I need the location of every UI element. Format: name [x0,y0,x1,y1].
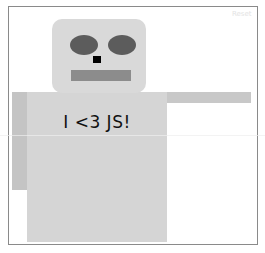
shirt-text: I <3 JS! [27,112,167,132]
robot-right-arm [167,92,251,103]
robot-right-eye [108,35,136,55]
robot-nose [93,56,101,63]
robot-mouth [71,70,131,81]
robot-left-eye [70,35,98,55]
divider-line [0,135,265,136]
robot-left-arm [12,92,27,190]
reset-button[interactable]: Reset [232,10,252,18]
